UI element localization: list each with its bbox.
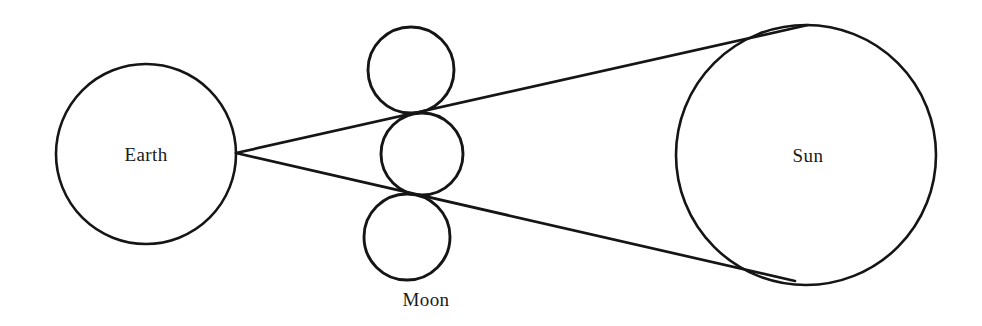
moon-circle-upper [368, 27, 454, 113]
sun-label: Sun [793, 145, 824, 167]
moon-circle-lower [364, 194, 450, 280]
eclipse-diagram: Earth Sun Moon [0, 0, 982, 326]
moon-circle-middle [381, 113, 463, 195]
moon-label: Moon [403, 289, 450, 311]
earth-label: Earth [124, 144, 167, 166]
